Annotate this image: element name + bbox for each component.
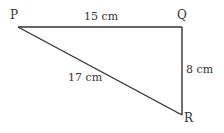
vertex-label-q: Q bbox=[177, 8, 187, 22]
side-label-pq: 15 cm bbox=[84, 10, 118, 23]
vertex-label-r: R bbox=[184, 111, 193, 125]
side-label-qr: 8 cm bbox=[186, 63, 213, 76]
side-label-pr: 17 cm bbox=[68, 71, 102, 84]
vertex-label-p: P bbox=[10, 8, 18, 22]
